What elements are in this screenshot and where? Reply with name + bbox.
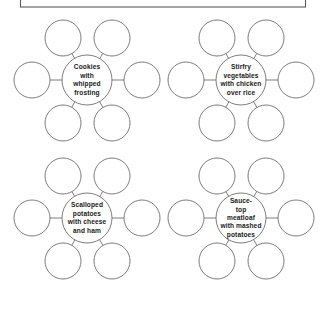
cluster-meatloaf: Sauce-topmeatloafwith mashedpotatoes (168, 158, 314, 279)
satellite-bottom-right[interactable] (248, 243, 284, 279)
clusters-layer: CookieswithwhippedfrostingStirfryvegetab… (14, 20, 314, 279)
center-bubble-label-line: top (236, 205, 247, 213)
satellite-bottom-left[interactable] (45, 105, 81, 141)
center-bubble-label-line: with (79, 72, 94, 79)
satellite-left[interactable] (168, 200, 204, 236)
center-bubble-label-line: Sauce- (230, 197, 252, 204)
satellite-top-left[interactable] (199, 158, 235, 194)
satellite-right[interactable] (278, 200, 314, 236)
connector-line (72, 102, 75, 107)
connector-line (100, 102, 103, 108)
connector-line (254, 240, 257, 246)
connector-line (100, 240, 103, 246)
satellite-top-left[interactable] (45, 20, 81, 56)
connector-line (226, 102, 229, 107)
center-bubble-label-line: Stirfry (231, 63, 251, 71)
center-bubble-label-line: whipped (72, 80, 100, 88)
center-bubble-label-line: potatoes (73, 210, 102, 218)
bubble-map-canvas: CookieswithwhippedfrostingStirfryvegetab… (0, 0, 327, 309)
satellite-left[interactable] (14, 62, 50, 98)
center-bubble-label-line: Cookies (74, 63, 101, 70)
connector-line (226, 54, 229, 59)
satellite-top-left[interactable] (45, 158, 81, 194)
connector-line (226, 240, 229, 245)
center-bubble-label-line: with chicken (220, 80, 262, 87)
satellite-top-left[interactable] (199, 20, 235, 56)
connector-line (254, 102, 257, 108)
satellite-bottom-right[interactable] (94, 105, 130, 141)
header-layer (21, 0, 306, 7)
connector-line (72, 54, 75, 59)
satellite-right[interactable] (124, 200, 160, 236)
center-bubble-label-line: over rice (227, 88, 256, 95)
center-bubble-label-line: vegetables (223, 72, 258, 80)
satellite-bottom-left[interactable] (45, 243, 81, 279)
center-bubble-label-line: with cheese (67, 218, 107, 225)
satellite-left[interactable] (168, 62, 204, 98)
center-bubble-label-line: and ham (73, 226, 101, 233)
satellite-left[interactable] (14, 200, 50, 236)
cluster-scalloped-potatoes: Scallopedpotatoeswith cheeseand ham (14, 158, 160, 279)
center-bubble-label-line: frosting (74, 88, 99, 96)
connector-line (226, 192, 229, 197)
center-bubble-label: Scallopedpotatoeswith cheeseand ham (67, 201, 107, 233)
connector-line (72, 192, 75, 197)
center-bubble-label: Cookieswithwhippedfrosting (72, 63, 100, 96)
satellite-top-right[interactable] (94, 20, 130, 56)
satellite-top-right[interactable] (248, 20, 284, 56)
cluster-stirfry: Stirfryvegetableswith chickenover rice (168, 20, 314, 141)
connector-line (254, 53, 257, 58)
worksheet-page: CookieswithwhippedfrostingStirfryvegetab… (0, 0, 327, 309)
satellite-bottom-right[interactable] (94, 243, 130, 279)
center-bubble-label-line: potatoes (227, 231, 256, 239)
satellite-top-right[interactable] (248, 158, 284, 194)
connector-line (100, 53, 103, 58)
satellite-bottom-left[interactable] (199, 243, 235, 279)
connector-line (72, 240, 75, 245)
connector-line (254, 191, 257, 196)
satellite-top-right[interactable] (94, 158, 130, 194)
satellite-right[interactable] (124, 62, 160, 98)
connector-line (100, 191, 103, 196)
cluster-cookies: Cookieswithwhippedfrosting (14, 20, 160, 141)
satellite-bottom-left[interactable] (199, 105, 235, 141)
satellite-bottom-right[interactable] (248, 105, 284, 141)
title-box (21, 0, 306, 7)
satellite-right[interactable] (278, 62, 314, 98)
center-bubble-label-line: Scalloped (71, 201, 103, 209)
center-bubble-label-line: meatloaf (227, 214, 256, 221)
center-bubble-label-line: with mashed (219, 222, 261, 229)
